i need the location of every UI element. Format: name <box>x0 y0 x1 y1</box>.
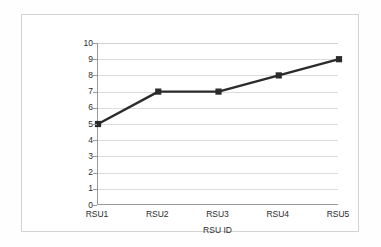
plot-area <box>97 43 338 205</box>
x-tick-label: RSU5 <box>327 209 350 220</box>
y-tick-label: 1 <box>77 184 93 193</box>
chart-figure: 012345678910 Number of total transmitted… <box>0 0 381 247</box>
y-tick-mark <box>93 156 97 157</box>
data-point-marker <box>155 89 161 95</box>
x-tick-label: RSU4 <box>266 209 289 220</box>
y-tick-mark <box>93 189 97 190</box>
y-axis-ticks: 012345678910 <box>75 43 93 205</box>
chart-frame: 012345678910 Number of total transmitted… <box>21 14 359 232</box>
y-tick-mark <box>93 173 97 174</box>
y-tick-label: 7 <box>77 87 93 96</box>
x-axis-tick-labels: RSU1RSU2RSU3RSU4RSU5 <box>97 209 338 221</box>
y-tick-mark <box>93 92 97 93</box>
data-point-marker <box>336 56 342 62</box>
y-tick-label: 6 <box>77 103 93 112</box>
y-tick-mark <box>93 205 97 206</box>
y-tick-label: 4 <box>77 136 93 145</box>
y-tick-label: 10 <box>77 39 93 48</box>
y-tick-mark <box>93 59 97 60</box>
y-tick-label: 2 <box>77 168 93 177</box>
x-axis-title: RSU ID <box>97 225 338 235</box>
y-tick-mark <box>93 75 97 76</box>
y-tick-mark <box>93 43 97 44</box>
data-point-marker <box>276 72 282 78</box>
y-tick-mark <box>93 108 97 109</box>
x-tick-label: RSU2 <box>146 209 169 220</box>
y-tick-label: 8 <box>77 71 93 80</box>
data-series-line <box>98 43 339 205</box>
y-tick-mark <box>93 124 97 125</box>
x-tick-label: RSU1 <box>86 209 109 220</box>
y-tick-label: 3 <box>77 152 93 161</box>
data-point-marker <box>215 89 221 95</box>
y-tick-label: 9 <box>77 55 93 64</box>
y-tick-mark <box>93 140 97 141</box>
y-tick-label: 5 <box>77 120 93 129</box>
x-tick-label: RSU3 <box>206 209 229 220</box>
